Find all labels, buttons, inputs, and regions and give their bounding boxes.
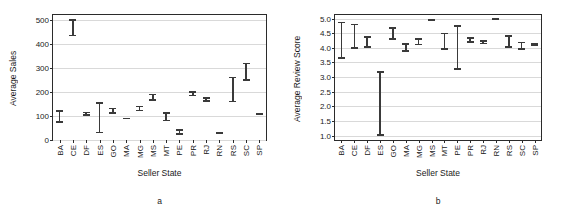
panel-b: Average Review Score 1.01.52.02.53.03.54… [288, 0, 575, 220]
error-bar-cap-lower [256, 113, 263, 115]
panel-a-x-axis-label: Seller State [52, 168, 267, 178]
x-tick-mark [246, 140, 247, 143]
error-bar-cap-lower [415, 44, 422, 46]
x-tick-mark [140, 140, 141, 143]
gridline [335, 33, 541, 34]
error-bar-cap-lower [364, 46, 371, 48]
gridline [53, 92, 266, 93]
x-tick-label: ES [376, 145, 385, 156]
x-tick-mark [179, 140, 180, 143]
error-bar-cap-lower [149, 99, 156, 101]
x-tick-mark [354, 140, 355, 143]
y-tick-label: 3.0 [320, 73, 335, 82]
x-tick-mark [393, 140, 394, 143]
y-tick-label: 200 [36, 87, 53, 96]
panel-b-x-axis-label: Seller State [334, 168, 542, 178]
error-bar-cap-upper [415, 38, 422, 40]
x-tick-label: MS [427, 145, 436, 157]
x-tick-label: RS [504, 145, 513, 156]
x-tick-label: MG [414, 145, 423, 158]
error-bar-cap-lower [338, 57, 345, 59]
x-tick-mark [100, 140, 101, 143]
error-bar-cap-upper [402, 43, 409, 45]
error-bar-cap-lower [109, 112, 116, 114]
error-bar-cap-lower [136, 110, 143, 112]
error-bar-cap-upper [189, 91, 196, 93]
panel-b-plot-area: 1.01.52.02.53.03.54.04.55.0BACEDFESGOMAM… [334, 14, 542, 141]
x-tick-label: MT [440, 145, 449, 157]
y-tick-label: 300 [36, 63, 53, 72]
error-bar-cap-lower [176, 133, 183, 135]
error-bar-cap-lower [441, 48, 448, 50]
error-bar-stem [379, 71, 381, 135]
x-tick-label: RJ [202, 145, 211, 155]
x-tick-mark [166, 140, 167, 143]
x-tick-mark [380, 140, 381, 143]
gridline [53, 20, 266, 21]
x-tick-label: PR [188, 145, 197, 156]
x-tick-label: MA [401, 145, 410, 157]
gridline [335, 19, 541, 20]
y-tick-label: 1.5 [320, 116, 335, 125]
error-bar-cap-upper [505, 35, 512, 37]
x-tick-mark [233, 140, 234, 143]
x-tick-label: DF [363, 145, 372, 156]
x-tick-label: RN [491, 145, 500, 157]
error-bar-cap-lower [243, 79, 250, 81]
error-bar-stem [457, 25, 459, 70]
error-bar-cap-upper [176, 129, 183, 131]
x-tick-mark [259, 140, 260, 143]
panel-b-caption: b [334, 196, 542, 206]
gridline [53, 44, 266, 45]
x-tick-mark [153, 140, 154, 143]
error-bar-cap-lower [229, 101, 236, 103]
x-tick-mark [432, 140, 433, 143]
error-bar-cap-upper [389, 27, 396, 29]
error-bar-cap-lower [480, 43, 487, 45]
error-bar-cap-upper [243, 63, 250, 65]
panel-a: Average Sales 0100200300400500BACEDFESGO… [0, 0, 287, 220]
error-bar-cap-lower [505, 46, 512, 48]
error-bar-cap-upper [480, 40, 487, 42]
error-bar-cap-upper [467, 37, 474, 39]
x-tick-mark [444, 140, 445, 143]
y-tick-label: 100 [36, 111, 53, 120]
x-tick-label: MS [148, 145, 157, 157]
x-tick-label: SC [517, 145, 526, 156]
panel-b-y-axis-label: Average Review Score [292, 20, 302, 138]
x-tick-mark [535, 140, 536, 143]
gridline [53, 140, 266, 141]
error-bar-cap-lower [189, 95, 196, 97]
x-tick-label: MG [135, 145, 144, 158]
gridline [335, 106, 541, 107]
x-tick-mark [73, 140, 74, 143]
panel-a-y-axis-label: Average Sales [8, 26, 18, 130]
gridline [335, 62, 541, 63]
x-tick-label: MA [122, 145, 131, 157]
x-tick-label: CE [350, 145, 359, 156]
error-bar-stem [341, 22, 343, 59]
x-tick-label: GO [108, 145, 117, 157]
x-tick-mark [341, 140, 342, 143]
error-bar-cap-upper [338, 22, 345, 24]
gridline [335, 121, 541, 122]
error-bar-cap-upper [163, 112, 170, 114]
error-bar-cap-lower [518, 48, 525, 50]
y-tick-label: 2.0 [320, 102, 335, 111]
x-tick-mark [496, 140, 497, 143]
error-bar-cap-upper [377, 71, 384, 73]
error-bar-cap-upper [56, 110, 63, 112]
gridline [335, 77, 541, 78]
x-tick-mark [86, 140, 87, 143]
x-tick-label: GO [388, 145, 397, 157]
gridline [53, 68, 266, 69]
error-bar-cap-upper [96, 102, 103, 104]
error-bar-cap-upper [136, 106, 143, 108]
x-tick-label: SP [530, 145, 539, 156]
error-bar-cap-lower [377, 134, 384, 136]
panel-a-caption: a [52, 196, 267, 206]
error-bar-stem [444, 33, 446, 50]
x-tick-label: RJ [479, 145, 488, 155]
gridline [53, 116, 266, 117]
error-bar-cap-lower [351, 47, 358, 49]
